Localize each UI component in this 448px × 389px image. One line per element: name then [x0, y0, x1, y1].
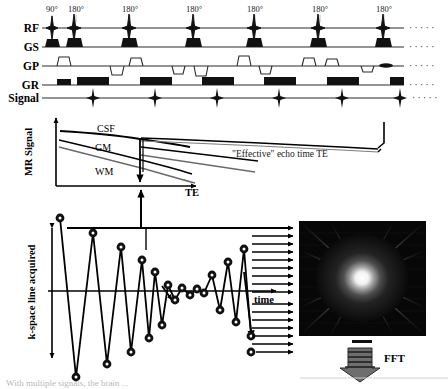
- gs-pulse: [246, 38, 263, 47]
- curve-label-csf: CSF: [97, 123, 115, 134]
- kspace-scale-bar: [352, 340, 372, 343]
- gs-pulse: [310, 38, 327, 47]
- kspace-center-glow: [316, 234, 408, 322]
- mr-signal-ylabel: MR Signal: [23, 128, 34, 176]
- kspace-data-point-last-dot: [250, 351, 253, 354]
- gr-pulse: [57, 79, 71, 85]
- gr-pulse: [77, 77, 109, 85]
- rf-continuation: · · · · ·: [409, 23, 434, 33]
- flip-angle-label: 180°: [376, 4, 392, 14]
- kspace-image: [299, 221, 426, 336]
- gr-pulse: [264, 77, 296, 85]
- figure-caption: With multiple signals, the brain ...: [6, 378, 128, 388]
- gs-pulse: [185, 38, 202, 47]
- row-label-gs: GS: [24, 41, 39, 53]
- gp-blip-flat: [379, 63, 393, 67]
- fft-label: FFT: [384, 352, 405, 364]
- gr-continuation: · · · · ·: [409, 80, 434, 90]
- curve-label-gm: GM: [95, 142, 111, 153]
- gr-pulse: [390, 77, 404, 85]
- curve-label-wm: WM: [95, 166, 113, 177]
- gs-pulse: [121, 38, 138, 47]
- gr-pulse: [327, 77, 359, 85]
- row-label-gp: GP: [23, 60, 39, 72]
- gr-pulse: [140, 77, 172, 85]
- kspace-ylabel: k-space line acquired: [26, 244, 37, 339]
- gs-pulse: [375, 38, 392, 47]
- mri-sequence-figure: 90° 180° 180° 180° 180° 180° 180° RF: [0, 0, 448, 389]
- row-label-signal: Signal: [8, 92, 39, 105]
- gp-continuation: · · · · ·: [409, 61, 434, 71]
- gr-pulse: [202, 77, 234, 85]
- row-label-rf: RF: [24, 22, 39, 34]
- signal-continuation: · · · · ·: [412, 93, 437, 103]
- gs-continuation: · · · · ·: [409, 42, 434, 52]
- kspace-image-content: [299, 221, 426, 336]
- flip-angle-label: 180°: [122, 4, 138, 14]
- mr-signal-xlabel: TE: [185, 187, 199, 198]
- effective-te-annotation: "Effective" echo time TE: [232, 149, 328, 159]
- flip-angle-label: 180°: [312, 4, 328, 14]
- flip-angle-label: 180°: [186, 4, 202, 14]
- flip-angle-label: 90°: [46, 4, 58, 14]
- flip-angle-label: 180°: [68, 4, 84, 14]
- gs-pulse: [45, 39, 60, 47]
- row-label-gr: GR: [22, 79, 40, 91]
- gs-pulse: [66, 38, 83, 47]
- flip-angle-label: 180°: [247, 4, 263, 14]
- figure-canvas: 90° 180° 180° 180° 180° 180° 180° RF: [0, 0, 448, 389]
